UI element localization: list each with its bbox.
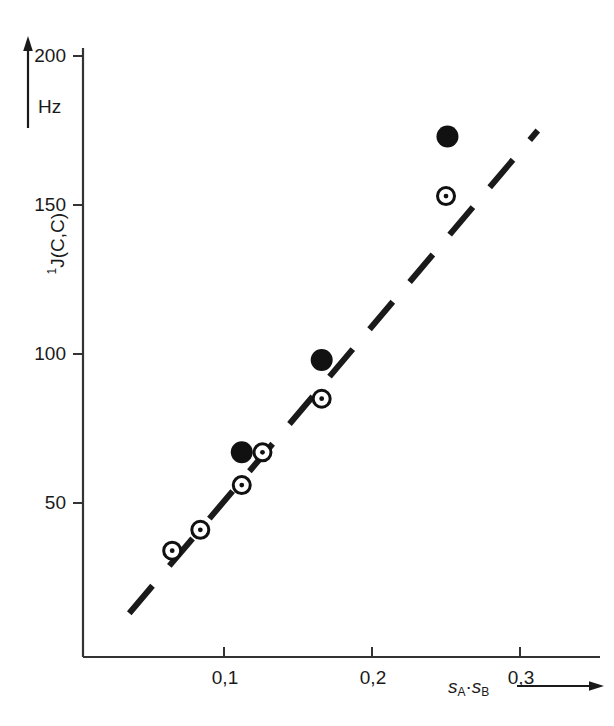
data-point-open-center	[260, 450, 265, 455]
data-point-open-center	[319, 396, 324, 401]
x-tick-label-0-1: 0,1	[204, 668, 246, 687]
data-point-open-center	[198, 527, 203, 532]
data-markers-group	[164, 125, 459, 559]
y-tick-label-200: 200	[14, 46, 66, 65]
x-axis-ticks	[224, 647, 520, 657]
y-axis-title: 1J(C,C)	[45, 169, 68, 319]
x-axis-title-sb-subscript: B	[481, 685, 489, 699]
x-axis-title-sa-subscript: A	[458, 685, 466, 699]
x-axis-title: sA·sB	[448, 676, 489, 699]
x-axis-title-sa: s	[448, 676, 458, 697]
dashed-trend-line	[129, 131, 537, 614]
scatter-plot-canvas	[0, 0, 614, 726]
y-tick-label-100: 100	[14, 344, 66, 363]
y-tick-label-50: 50	[14, 493, 66, 512]
x-tick-label-0-2: 0,2	[352, 668, 394, 687]
y-axis-unit-label: Hz	[38, 96, 61, 118]
x-tick-label-0-3: 0,3	[500, 668, 542, 687]
data-point-filled	[436, 125, 458, 147]
data-point-filled	[231, 441, 253, 463]
chart-figure: 200 150 100 50 Hz 0,1 0,2 0,3 1J(C,C) sA…	[0, 0, 614, 726]
y-axis-ticks	[73, 56, 83, 503]
data-point-open-center	[239, 483, 244, 488]
data-point-open-center	[444, 194, 449, 199]
data-point-filled	[311, 349, 333, 371]
x-axis-title-sb: s	[472, 676, 482, 697]
y-axis-title-main: J(C,C)	[47, 213, 68, 268]
y-axis-title-superscript: 1	[45, 268, 59, 275]
data-point-open-center	[170, 548, 175, 553]
